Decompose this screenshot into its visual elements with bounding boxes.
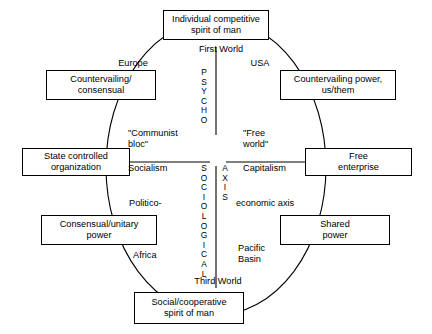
label-africa: Africa bbox=[133, 250, 189, 261]
label-europe: Europe bbox=[105, 58, 161, 69]
box-right-line-2: enterprise bbox=[338, 162, 379, 173]
label-communist-bloc: "Communist bloc" bbox=[128, 128, 198, 150]
box-left-line-1: State controlled bbox=[44, 151, 108, 162]
label-communist-bloc-line-2: bloc" bbox=[128, 139, 198, 150]
label-third-world: Third World bbox=[168, 276, 268, 287]
box-bottom-line-2: spirit of man bbox=[164, 308, 214, 319]
label-communist-bloc-line-1: "Communist bbox=[128, 128, 198, 139]
box-shared-power[interactable]: Shared power bbox=[280, 215, 390, 245]
box-bot-right-line-1: Shared bbox=[320, 219, 350, 230]
label-free-world-line-2: world" bbox=[243, 139, 303, 150]
box-social-cooperative-spirit[interactable]: Social/cooperative spirit of man bbox=[134, 292, 244, 324]
box-left-line-2: organization bbox=[51, 162, 101, 173]
label-pacific-basin-line-1: Pacific bbox=[238, 243, 290, 254]
psycho-letter-5: O bbox=[198, 116, 210, 126]
box-right-line-1: Free bbox=[349, 151, 368, 162]
label-socialism: Socialism bbox=[128, 163, 198, 174]
box-state-controlled-organization[interactable]: State controlled organization bbox=[22, 148, 130, 176]
diagram-canvas: Individual competitive spirit of man Cou… bbox=[0, 0, 432, 334]
label-usa: USA bbox=[240, 58, 280, 69]
box-top-right-line-1: Countervailing power, bbox=[294, 74, 382, 85]
box-bottom-line-1: Social/cooperative bbox=[151, 297, 226, 308]
axis-label-sociological: SOCIOLOGICAL bbox=[198, 164, 210, 279]
box-top-right-line-2: us/them bbox=[322, 85, 355, 96]
label-first-world: First World bbox=[172, 44, 270, 55]
axis-letter-3: S bbox=[219, 193, 231, 203]
box-bot-left-line-2: power bbox=[86, 230, 111, 241]
box-individual-competitive-spirit[interactable]: Individual competitive spirit of man bbox=[163, 10, 269, 40]
box-countervailing-power-us-them[interactable]: Countervailing power, us/them bbox=[280, 70, 396, 100]
label-capitalism: Capitalism bbox=[243, 163, 313, 174]
axis-label-axis: AXIS bbox=[219, 164, 231, 202]
box-free-enterprise[interactable]: Free enterprise bbox=[305, 148, 412, 176]
box-top-line-1: Individual competitive bbox=[172, 14, 260, 25]
axis-label-psycho: PSYCHO bbox=[198, 68, 210, 126]
label-pacific-basin-line-2: Basin bbox=[238, 254, 290, 265]
label-pacific-basin: Pacific Basin bbox=[238, 243, 290, 265]
box-bot-left-line-1: Consensual/unitary bbox=[60, 219, 139, 230]
label-economic-axis: economic axis bbox=[236, 198, 328, 209]
label-free-world-line-1: "Free bbox=[243, 128, 303, 139]
sociological-letter-11: L bbox=[198, 270, 210, 280]
box-top-line-2: spirit of man bbox=[191, 25, 241, 36]
box-bot-right-line-2: power bbox=[322, 230, 347, 241]
label-free-world: "Free world" bbox=[243, 128, 303, 150]
box-top-left-line-2: consensual bbox=[78, 85, 124, 96]
box-countervailing-consensual[interactable]: Countervailing/ consensual bbox=[46, 70, 156, 100]
label-politico: Politico- bbox=[129, 198, 189, 209]
box-top-left-line-1: Countervailing/ bbox=[70, 74, 131, 85]
box-consensual-unitary-power[interactable]: Consensual/unitary power bbox=[41, 215, 157, 245]
